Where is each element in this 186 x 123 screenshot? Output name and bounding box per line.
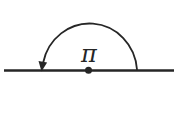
diagram-canvas: π xyxy=(0,0,186,123)
angle-label: π xyxy=(80,40,98,68)
pi-rotation-figure: π xyxy=(0,0,186,123)
